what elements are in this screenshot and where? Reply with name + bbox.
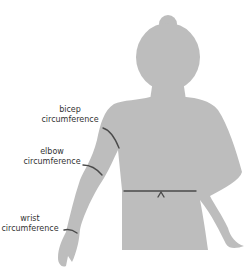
elbow-label-line2: circumference <box>20 157 84 167</box>
bicep-label: bicep circumference <box>38 105 102 125</box>
bicep-label-line2: circumference <box>38 115 102 125</box>
wrist-label: wrist circumference <box>0 214 62 234</box>
silhouette <box>58 15 244 267</box>
wrist-label-line2: circumference <box>0 224 62 234</box>
elbow-label: elbow circumference <box>20 147 84 167</box>
elbow-label-line1: elbow <box>20 147 84 157</box>
wrist-label-line1: wrist <box>0 214 62 224</box>
bicep-label-line1: bicep <box>38 105 102 115</box>
